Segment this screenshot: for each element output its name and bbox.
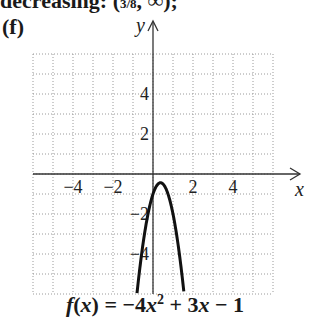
parabola-curve	[137, 183, 184, 293]
x-tick-label: −4	[63, 177, 82, 197]
x-axis-label: x	[294, 178, 304, 200]
y-tick-label: 2	[140, 124, 149, 144]
x-tick-label: −2	[103, 177, 122, 197]
y-axis-label: y	[134, 14, 145, 37]
x-tick-label: 4	[229, 177, 238, 197]
parabola-chart: xy−4−224−4−224	[0, 0, 310, 326]
y-tick-label: 4	[140, 84, 149, 104]
function-caption: f(x) = −4x2 + 3x − 1	[0, 292, 310, 318]
x-tick-label: 2	[189, 177, 198, 197]
